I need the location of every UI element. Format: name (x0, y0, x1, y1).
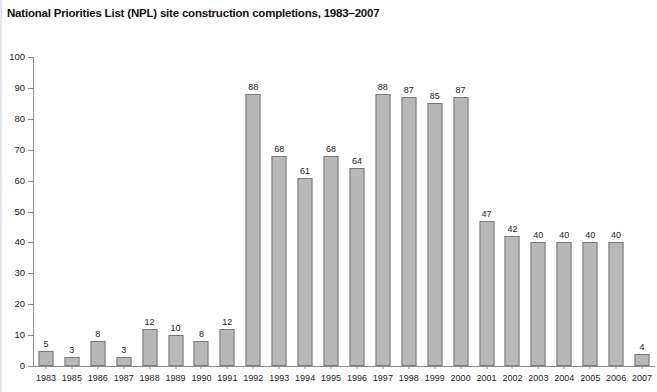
bar[interactable] (479, 221, 494, 366)
bar-value-label: 40 (585, 230, 595, 240)
x-axis-tick-label: 1986 (88, 373, 108, 383)
bar-value-label: 88 (378, 82, 388, 92)
y-axis-tick-label: 100 (9, 51, 25, 62)
plot-area: 0102030405060708090100 53831210812886861… (33, 57, 655, 366)
x-axis-tick-mark (201, 366, 202, 369)
page-title: National Priorities List (NPL) site cons… (7, 7, 379, 19)
bar[interactable] (557, 242, 572, 366)
bar-value-label: 68 (326, 144, 336, 154)
bar-value-label: 3 (121, 345, 126, 355)
bar[interactable] (324, 156, 339, 366)
bar-series: 5383121081288686168648887858747424040404… (33, 57, 655, 366)
x-axis-tick-mark (538, 366, 539, 369)
bar[interactable] (142, 329, 157, 366)
x-axis-tick-mark (616, 366, 617, 369)
bar[interactable] (194, 341, 209, 366)
bar-value-label: 12 (222, 317, 232, 327)
bar[interactable] (635, 354, 650, 366)
bar-value-label: 5 (43, 339, 48, 349)
bar[interactable] (272, 156, 287, 366)
x-axis-tick-label: 2001 (477, 373, 497, 383)
x-axis-tick-mark (382, 366, 383, 369)
x-axis-tick-mark (460, 366, 461, 369)
page-left-edge (0, 0, 2, 392)
x-axis-tick-mark (331, 366, 332, 369)
bar[interactable] (583, 242, 598, 366)
x-axis-tick-label: 1995 (321, 373, 341, 383)
bar[interactable] (38, 351, 53, 366)
bar-value-label: 64 (352, 156, 362, 166)
bar-slot: 3 (59, 57, 85, 366)
x-axis-tick-label: 2005 (580, 373, 600, 383)
x-axis-tick-label: 1994 (295, 373, 315, 383)
bar-slot: 4 (629, 57, 655, 366)
bar-slot: 42 (500, 57, 526, 366)
bar[interactable] (609, 242, 624, 366)
x-axis-tick-label: 1985 (62, 373, 82, 383)
bar[interactable] (298, 178, 313, 366)
x-axis-tick-mark (97, 366, 98, 369)
bar-slot: 47 (474, 57, 500, 366)
bar[interactable] (116, 357, 131, 366)
x-axis-tick-label: 1983 (36, 373, 56, 383)
bar-value-label: 3 (69, 345, 74, 355)
bar-slot: 40 (525, 57, 551, 366)
x-axis-tick-label: 1996 (347, 373, 367, 383)
x-axis-tick-label: 1997 (373, 373, 393, 383)
bar[interactable] (90, 341, 105, 366)
bar[interactable] (64, 357, 79, 366)
x-axis-tick-mark (71, 366, 72, 369)
bar-value-label: 47 (482, 209, 492, 219)
bar[interactable] (349, 168, 364, 366)
y-axis-tick-label: 80 (14, 113, 25, 124)
y-axis-tick-label: 90 (14, 82, 25, 93)
bar[interactable] (453, 97, 468, 366)
x-axis-tick-label: 2002 (502, 373, 522, 383)
bar-value-label: 42 (507, 224, 517, 234)
bar[interactable] (220, 329, 235, 366)
x-axis-tick-label: 2007 (632, 373, 652, 383)
bar-slot: 88 (240, 57, 266, 366)
bar[interactable] (246, 94, 261, 366)
y-axis-tick-label: 50 (14, 206, 25, 217)
bar-slot: 68 (266, 57, 292, 366)
bar-value-label: 85 (430, 91, 440, 101)
x-axis-tick-mark (305, 366, 306, 369)
chart-page: National Priorities List (NPL) site cons… (0, 0, 657, 392)
x-axis-tick-mark (642, 366, 643, 369)
x-axis-tick-label: 1987 (114, 373, 134, 383)
x-axis-tick-label: 1990 (191, 373, 211, 383)
bar[interactable] (505, 236, 520, 366)
bar-value-label: 8 (95, 329, 100, 339)
bar-value-label: 4 (640, 342, 645, 352)
bar[interactable] (375, 94, 390, 366)
bar-slot: 12 (137, 57, 163, 366)
x-axis-tick-label: 2003 (528, 373, 548, 383)
bar-slot: 85 (422, 57, 448, 366)
x-axis-tick-mark (279, 366, 280, 369)
bar[interactable] (427, 103, 442, 366)
bar-value-label: 88 (248, 82, 258, 92)
x-axis-tick-mark (564, 366, 565, 369)
bar-value-label: 12 (145, 317, 155, 327)
bar[interactable] (401, 97, 416, 366)
x-axis-tick-mark (227, 366, 228, 369)
bar-slot: 68 (318, 57, 344, 366)
bar[interactable] (168, 335, 183, 366)
bar-value-label: 40 (611, 230, 621, 240)
x-axis-tick-mark (356, 366, 357, 369)
x-axis-tick-label: 1991 (217, 373, 237, 383)
x-axis-tick-label: 1988 (140, 373, 160, 383)
x-axis-tick-label: 2004 (554, 373, 574, 383)
y-axis-tick-label: 40 (14, 236, 25, 247)
bar[interactable] (531, 242, 546, 366)
bar-value-label: 8 (199, 329, 204, 339)
y-axis-tick-label: 30 (14, 267, 25, 278)
x-axis-tick-label: 1989 (166, 373, 186, 383)
bar-slot: 87 (448, 57, 474, 366)
y-axis-tick-label: 0 (20, 360, 25, 371)
bar-value-label: 87 (404, 85, 414, 95)
y-axis-tick-label: 10 (14, 329, 25, 340)
x-axis-tick-label: 1992 (243, 373, 263, 383)
bar-slot: 64 (344, 57, 370, 366)
